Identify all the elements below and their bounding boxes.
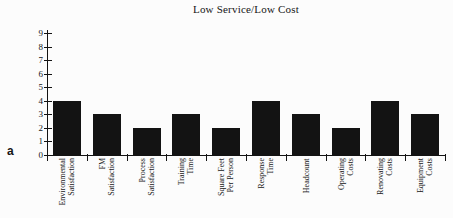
bar-environmental-satisfaction [53, 101, 81, 155]
x-axis-category-label: RenovatingCosts [376, 158, 394, 212]
category-label-line: Process [138, 158, 147, 212]
y-axis-tick [44, 47, 52, 48]
category-label-line: Operating [337, 158, 346, 212]
y-axis-tick-label: 8 [23, 42, 43, 52]
x-axis-category-label: TrainingTime [177, 158, 195, 212]
category-label-line: Equipment [416, 158, 425, 212]
x-axis-tick [87, 154, 88, 161]
y-axis-tick-label: 2 [23, 123, 43, 133]
category-label-line: Per Person [226, 158, 235, 212]
category-label-line: Satisfaction [107, 158, 116, 212]
x-axis-category-label: OperatingCosts [337, 158, 355, 212]
x-axis-tick [246, 154, 247, 161]
x-axis-tick [166, 154, 167, 161]
bar-square-feet-per-person [212, 128, 240, 155]
x-axis-category-label: EnvironmentalSatisfaction [58, 158, 76, 212]
category-label-line: Time [266, 158, 275, 212]
bar-fm-satisfaction [93, 114, 121, 155]
category-label-line: Satisfaction [67, 158, 76, 212]
bar-equipment-costs [411, 114, 439, 155]
bar-headcount [292, 114, 320, 155]
bar-training-time [172, 114, 200, 155]
y-axis-tick [44, 60, 52, 61]
y-axis-tick-label: 4 [23, 96, 43, 106]
y-axis-tick [44, 33, 52, 34]
y-axis-tick-label: 6 [23, 69, 43, 79]
category-label-line: Square Feet [217, 158, 226, 212]
category-label-line: FM [98, 158, 107, 212]
x-axis-category-label: EquipmentCosts [416, 158, 434, 212]
category-label-line: Costs [346, 158, 355, 212]
category-label-line: Costs [385, 158, 394, 212]
category-label-line: Costs [425, 158, 434, 212]
x-axis-tick [445, 154, 446, 161]
x-axis-tick [326, 154, 327, 161]
y-axis-tick [44, 101, 52, 102]
x-axis-tick [365, 154, 366, 161]
x-axis-category-label: Square FeetPer Person [217, 158, 235, 212]
y-axis-tick-label: 3 [23, 109, 43, 119]
x-axis-tick [405, 154, 406, 161]
plot-area: 0123456789EnvironmentalSatisfactionFMSat… [0, 0, 453, 218]
category-label-line: Time [186, 158, 195, 212]
y-axis-tick [44, 74, 52, 75]
x-axis-tick [286, 154, 287, 161]
x-axis-tick [127, 154, 128, 161]
bar-renovating-costs [371, 101, 399, 155]
category-label-line: Environmental [58, 158, 67, 212]
y-axis-tick-label: 1 [23, 136, 43, 146]
category-label-line: Headcount [301, 158, 310, 212]
y-axis-tick-label: 5 [23, 82, 43, 92]
x-axis-category-label: Headcount [301, 158, 310, 212]
y-axis-tick [44, 114, 52, 115]
bar-response-time [252, 101, 280, 155]
bar-operating-costs [332, 128, 360, 155]
x-axis-category-label: ProcessSatisfaction [138, 158, 156, 212]
category-label-line: Training [177, 158, 186, 212]
y-axis-tick [44, 128, 52, 129]
figure-page: Low Service/Low Cost a 0123456789Environ… [0, 0, 453, 218]
x-axis-tick [47, 154, 48, 161]
y-axis-tick-label: 9 [23, 28, 43, 38]
y-axis-line [47, 30, 48, 156]
y-axis-tick [44, 141, 52, 142]
category-label-line: Renovating [376, 158, 385, 212]
x-axis-category-label: FMSatisfaction [98, 158, 116, 212]
bar-process-satisfaction [133, 128, 161, 155]
x-axis-category-label: ResponseTime [257, 158, 275, 212]
x-axis-tick [206, 154, 207, 161]
y-axis-tick [44, 87, 52, 88]
category-label-line: Satisfaction [147, 158, 156, 212]
y-axis-tick-label: 7 [23, 55, 43, 65]
y-axis-tick-label: 0 [23, 150, 43, 160]
category-label-line: Response [257, 158, 266, 212]
